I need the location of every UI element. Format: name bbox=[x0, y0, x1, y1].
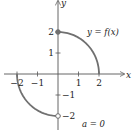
function-graph: −2−11221−1−2 x y y = f(x) a = 0 bbox=[0, 0, 132, 132]
y-tick-label: −1 bbox=[62, 90, 75, 100]
y-tick-label: 2 bbox=[48, 27, 54, 37]
filled-endpoint bbox=[56, 30, 61, 35]
x-tick-label: 1 bbox=[76, 78, 82, 88]
open-endpoint bbox=[56, 114, 61, 119]
y-tick-label: 1 bbox=[48, 48, 54, 58]
y-tick-label: −2 bbox=[62, 111, 75, 121]
x-tick-label: −1 bbox=[31, 78, 44, 88]
x-tick-label: 2 bbox=[96, 78, 102, 88]
y-axis-label: y bbox=[60, 0, 67, 8]
upper-curve bbox=[58, 32, 99, 74]
function-label: y = f(x) bbox=[86, 27, 119, 37]
x-axis-label: x bbox=[126, 70, 131, 80]
x-tick-label: −2 bbox=[10, 78, 23, 88]
a-value-label: a = 0 bbox=[82, 119, 106, 129]
